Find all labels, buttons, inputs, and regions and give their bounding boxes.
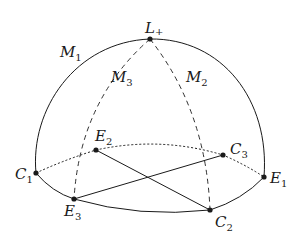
point-e1 [261, 174, 266, 179]
label-e3: E3 [63, 202, 81, 222]
point-c2 [207, 207, 212, 212]
label-m3: M3 [110, 68, 133, 88]
label-e1: E1 [269, 169, 287, 189]
label-l-plus: L+ [144, 19, 163, 37]
point-c3 [220, 152, 225, 157]
point-e3 [71, 196, 76, 201]
dome-diagram: L+ M1 M3 M2 C1 E2 E3 C3 E1 C2 [0, 0, 301, 238]
meridian-m2 [150, 39, 210, 210]
label-m2: M2 [185, 68, 208, 88]
point-e2 [93, 147, 98, 152]
meridian-m3 [74, 39, 150, 199]
chord-e2-c2 [96, 150, 210, 210]
label-c1: C1 [15, 165, 33, 185]
point-c1 [33, 170, 38, 175]
label-c3: C3 [230, 140, 248, 160]
label-m1: M1 [59, 43, 82, 63]
label-e2: E2 [94, 127, 112, 147]
point-l-plus [147, 36, 152, 41]
chord-e3-c3 [74, 155, 223, 199]
label-c2: C2 [215, 213, 233, 233]
